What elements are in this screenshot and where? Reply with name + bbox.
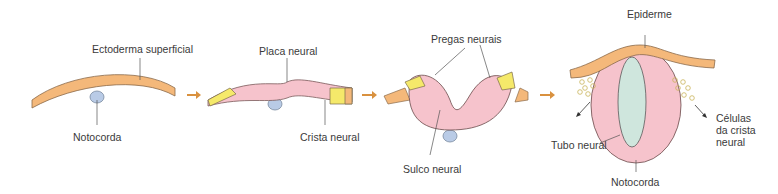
label-placa-neural: Placa neural: [259, 45, 317, 57]
arrow-3: [540, 91, 555, 99]
label-epiderme: Epiderme: [627, 8, 672, 20]
arrow-1: [187, 91, 201, 99]
label-celulas: Células: [716, 112, 751, 124]
label-crista-neural: Crista neural: [300, 131, 360, 143]
label-sulco-neural: Sulco neural: [403, 163, 461, 175]
label-da-crista: da crista: [716, 124, 756, 136]
label-pregas-neurais: Pregas neurais: [431, 33, 502, 45]
stage-2: [208, 58, 352, 125]
label-notocorda-4: Notocorda: [611, 176, 659, 188]
stage-3: [384, 45, 528, 155]
stage-1: [32, 58, 175, 125]
ectoderm-1: [32, 75, 175, 108]
label-notocorda-1: Notocorda: [73, 131, 121, 143]
arrow-2: [362, 91, 377, 99]
stage-4: [570, 35, 715, 172]
label-neural: neural: [716, 136, 745, 148]
label-ectoderma-superficial: Ectoderma superficial: [92, 43, 193, 55]
neural-tube-diagram: [0, 0, 778, 194]
label-tubo-neural: Tubo neural: [551, 139, 607, 151]
